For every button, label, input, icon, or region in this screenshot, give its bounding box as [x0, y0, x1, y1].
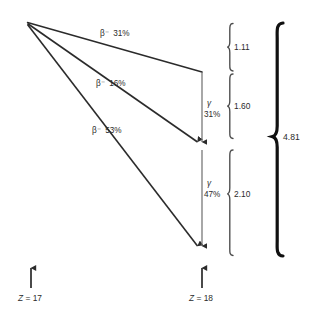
- gamma-symbol-1: γ: [207, 99, 212, 108]
- energy-brace-label-2: 1.60: [234, 101, 251, 111]
- beta-transition-line-3: [28, 25, 198, 247]
- energy-brace-1: [227, 24, 233, 72]
- total-energy-brace: [273, 23, 283, 256]
- energy-brace-label-3: 2.10: [234, 189, 251, 199]
- z-parent-value: 17: [33, 293, 43, 303]
- gamma-intensity-1: 31%: [204, 110, 220, 119]
- z-parent-label: Z = 17: [17, 293, 42, 303]
- z-daughter-equals: =: [194, 293, 204, 303]
- beta-label-1: β⁻ 31%: [100, 29, 130, 38]
- gamma-symbol-2: γ: [207, 179, 212, 188]
- energy-brace-label-1: 1.11: [234, 42, 250, 52]
- energy-brace-2: [227, 74, 233, 139]
- z-daughter-value: 18: [204, 293, 214, 303]
- gamma-intensity-2: 47%: [204, 190, 220, 199]
- z-daughter-label: Z = 18: [188, 293, 213, 303]
- z-parent-equals: =: [23, 293, 33, 303]
- beta-label-3: β⁻ 53%: [92, 126, 122, 135]
- energy-brace-3: [227, 150, 233, 256]
- total-energy-label: 4.81: [283, 132, 300, 142]
- decay-scheme-figure: β⁻ 31% β⁻ 16% β⁻ 53% γ 31% γ 47% 1.11 1.…: [0, 0, 329, 312]
- beta-label-2: β⁻ 16%: [96, 79, 126, 88]
